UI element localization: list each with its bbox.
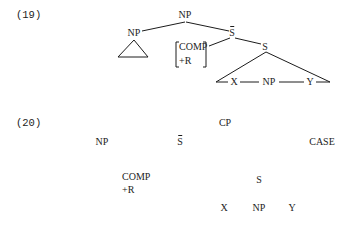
node-20-comp-feature: +R xyxy=(122,185,134,195)
node-20-np: NP xyxy=(96,137,109,147)
node-20-x: X xyxy=(220,203,227,213)
branch-sbar-to-comp xyxy=(209,38,230,46)
branch-root-to-sbar xyxy=(186,22,229,31)
triangle-left-np xyxy=(118,40,148,57)
node-19-left-np: NP xyxy=(128,28,141,38)
node-19-root-np: NP xyxy=(179,10,192,20)
node-20-cp: CP xyxy=(219,118,231,128)
node-20-s: S xyxy=(256,175,262,185)
node-19-sbar: S xyxy=(229,28,235,38)
tree-19-branches xyxy=(0,0,354,226)
node-19-x: X xyxy=(230,77,237,87)
node-19-y: Y xyxy=(306,77,313,87)
node-20-np: NP xyxy=(253,203,266,213)
node-20-y: Y xyxy=(288,203,295,213)
node-19-s: S xyxy=(262,42,268,52)
example-number-20: (20) xyxy=(16,118,41,129)
sbar-label: S xyxy=(177,137,183,147)
node-20-sbar: S xyxy=(177,137,183,147)
sbar-label: S xyxy=(229,28,235,38)
node-20-case: CASE xyxy=(309,137,335,147)
node-20-comp: COMP xyxy=(122,172,150,182)
branch-sbar-to-s xyxy=(235,38,261,44)
triangle-s-left xyxy=(216,52,266,82)
node-19-comp: COMP xyxy=(179,42,207,52)
node-19-comp-feature: +R xyxy=(179,56,191,66)
node-19-np: NP xyxy=(263,77,276,87)
branch-root-to-left-np xyxy=(142,22,185,31)
